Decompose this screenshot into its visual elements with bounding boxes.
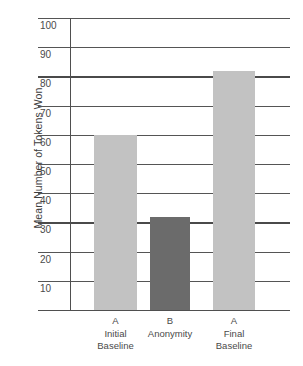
y-tick-label-10: 10 [40,283,51,295]
x-label-name-2: Baseline [183,340,285,353]
gridline-90 [38,47,290,48]
y-tick-label-30: 30 [40,224,51,236]
y-tick-label-20: 20 [40,254,51,266]
y-axis-line [70,18,71,310]
bar-3 [213,71,255,310]
y-tick-label-40: 40 [40,195,51,207]
gridline-100 [38,18,290,19]
bar-2 [150,217,190,310]
y-tick-label-50: 50 [40,166,51,178]
y-tick-label-90: 90 [40,49,51,61]
y-tick-label-80: 80 [40,78,51,90]
x-label-name: Final [183,328,285,341]
bar-chart: Mean Number of Tokens Won 10203040506070… [0,0,303,366]
y-tick-label-70: 70 [40,108,51,120]
y-tick-label-100: 100 [40,20,57,32]
bar-1 [94,135,137,310]
x-tick-label-3: AFinalBaseline [183,315,285,353]
plot-area: 102030405060708090100 AInitialBaselineBA… [0,0,303,366]
x-label-phase: A [183,315,285,328]
y-tick-label-60: 60 [40,137,51,149]
x-label-name-2: Baseline [64,340,167,353]
x-axis-line [38,310,290,311]
